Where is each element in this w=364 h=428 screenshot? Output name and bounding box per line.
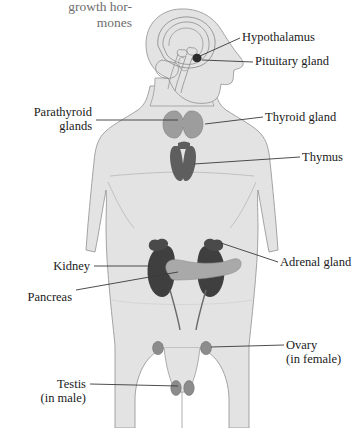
label-pituitary-gland: Pituitary gland <box>255 54 329 68</box>
label-testis: Testis (in male) <box>0 377 86 405</box>
label-hypothalamus: Hypothalamus <box>242 30 315 44</box>
label-thyroid-gland: Thyroid gland <box>265 110 336 124</box>
pituitary-gland-marker <box>192 54 201 62</box>
label-parathyroid-glands: Parathyroid glands <box>0 105 92 133</box>
label-adrenal-gland: Adrenal gland <box>280 255 351 269</box>
label-pancreas: Pancreas <box>0 290 72 304</box>
label-thymus: Thymus <box>302 150 343 164</box>
body-silhouette <box>86 9 278 428</box>
label-kidney: Kidney <box>0 259 90 273</box>
label-ovary: Ovary (in female) <box>286 338 341 366</box>
